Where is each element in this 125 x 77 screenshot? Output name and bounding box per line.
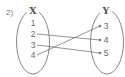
x-element-2: 2 — [31, 29, 36, 39]
mapping-diagram: 2) X 1 2 3 4 Y 3 4 5 — [0, 0, 125, 77]
x-element-4: 4 — [31, 50, 36, 60]
set-y-label: Y — [102, 5, 110, 16]
x-element-1: 1 — [31, 18, 36, 28]
arrow-head-icon — [99, 52, 101, 54]
y-element-3: 3 — [104, 21, 109, 31]
arrow-head-icon — [99, 39, 101, 41]
y-element-5: 5 — [104, 48, 109, 58]
x-element-3: 3 — [31, 40, 36, 50]
set-x-label: X — [29, 5, 37, 16]
y-element-4: 4 — [104, 35, 109, 45]
problem-label: 2) — [6, 8, 13, 17]
arrow-head-icon — [99, 25, 101, 27]
